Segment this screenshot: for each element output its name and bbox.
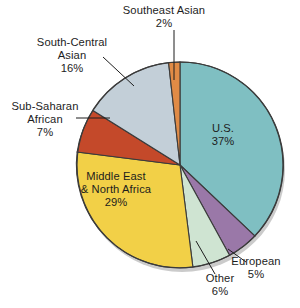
- label-sub-saharan-african-line1: Sub-Saharan: [11, 100, 78, 112]
- label-middle-east-north-africa-line2: & North Africa: [58, 183, 174, 196]
- label-sub-saharan-african-line2: African: [2, 113, 88, 126]
- label-south-central-asian-percent: 16%: [18, 62, 126, 75]
- label-sub-saharan-african: Sub-Saharan African 7%: [2, 100, 88, 140]
- label-us: U.S. 37%: [196, 122, 250, 148]
- label-us-name: U.S.: [212, 122, 234, 134]
- label-south-central-asian-line2: Asian: [18, 49, 126, 62]
- label-other: Other 6%: [196, 272, 244, 298]
- label-other-name: Other: [206, 272, 234, 284]
- label-middle-east-north-africa-percent: 29%: [58, 196, 174, 209]
- pie-chart: Southeast Asian 2% South-Central Asian 1…: [0, 0, 300, 308]
- label-south-central-asian: South-Central Asian 16%: [18, 36, 126, 76]
- label-middle-east-north-africa: Middle East & North Africa 29%: [58, 170, 174, 210]
- label-sub-saharan-african-percent: 7%: [2, 126, 88, 139]
- label-southeast-asian: Southeast Asian 2%: [108, 4, 220, 30]
- label-other-percent: 6%: [196, 285, 244, 298]
- pie-slices: [76, 62, 283, 268]
- label-southeast-asian-percent: 2%: [108, 17, 220, 30]
- label-us-percent: 37%: [196, 135, 250, 148]
- label-middle-east-north-africa-line1: Middle East: [86, 170, 146, 182]
- label-south-central-asian-line1: South-Central: [37, 36, 107, 48]
- label-european-name: European: [231, 255, 280, 267]
- label-southeast-asian-name: Southeast Asian: [123, 4, 205, 16]
